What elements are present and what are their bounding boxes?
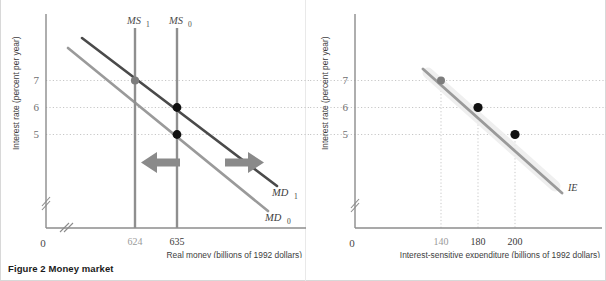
label-md1-sub: 1 [294, 192, 298, 201]
label-ie: IE [567, 182, 577, 193]
label-ms0-sub: 0 [188, 20, 192, 29]
figure-2-caption: Figure 2 Money market [8, 263, 114, 274]
x-axis-label: Interest-sensitive expenditure (billions… [400, 250, 600, 258]
y-axis-label: Interest rate (percent per year) [11, 36, 21, 150]
arrow-right [225, 152, 264, 173]
y-tick-5: 5 [343, 128, 349, 140]
origin-label: 0 [349, 237, 355, 249]
label-md1: MD 1 [271, 187, 298, 201]
figure-2-panel: 7 6 5 Interest rate (percent per year) 0… [0, 0, 310, 281]
point-b-180-6 [473, 103, 482, 112]
point-ms1-md1 [131, 76, 139, 84]
label-ms0-text: MS [168, 15, 184, 26]
label-ms0: MS 0 [168, 15, 192, 29]
guidelines [441, 81, 515, 229]
point-ms0-md0 [173, 130, 182, 139]
origin-label: 0 [40, 237, 46, 249]
x-tick-180: 180 [471, 236, 486, 247]
figure-3-chart: 7 6 5 Interest rate (percent per year) 0… [310, 0, 606, 258]
y-tick-7: 7 [34, 74, 40, 86]
label-md0: MD 0 [264, 212, 291, 226]
point-a-140-7 [437, 77, 445, 85]
y-tick-6: 6 [343, 101, 349, 113]
label-ms1-sub: 1 [146, 20, 150, 29]
point-ms0-md1 [173, 103, 182, 112]
x-tick-200: 200 [508, 236, 523, 247]
figure-3-panel: 7 6 5 Interest rate (percent per year) 0… [310, 0, 606, 281]
y-tick-7: 7 [343, 74, 349, 86]
y-axis-label: Interest rate (percent per year) [320, 36, 330, 150]
x-axis-label: Real money (billions of 1992 dollars) [167, 250, 303, 258]
figure-page: 7 6 5 Interest rate (percent per year) 0… [0, 0, 606, 281]
y-tick-5: 5 [34, 128, 40, 140]
label-md0-sub: 0 [287, 217, 291, 226]
label-ms1-text: MS [126, 15, 142, 26]
curve-ie [423, 69, 562, 193]
x-tick-624: 624 [128, 236, 143, 247]
point-c-200-5 [510, 130, 519, 139]
label-md0-text: MD [264, 212, 282, 223]
curve-md0 [68, 48, 268, 211]
arrow-left [141, 152, 180, 173]
x-tick-635: 635 [170, 236, 185, 247]
label-ms1: MS 1 [126, 15, 150, 29]
figure-2-chart: 7 6 5 Interest rate (percent per year) 0… [0, 0, 310, 258]
x-tick-140: 140 [434, 236, 449, 247]
y-tick-6: 6 [34, 101, 40, 113]
label-md1-text: MD [271, 187, 289, 198]
